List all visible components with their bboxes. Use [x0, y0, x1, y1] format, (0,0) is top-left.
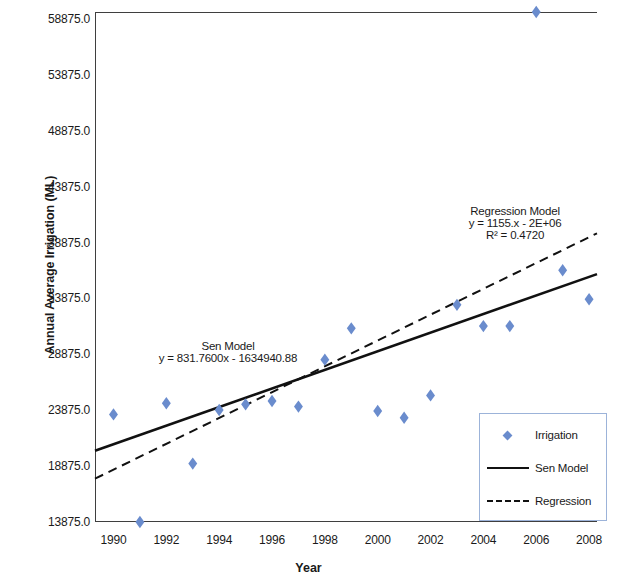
x-axis-tick-label: 1994	[189, 533, 249, 547]
solid-line-icon	[480, 467, 535, 469]
regression-model-annotation: Regression Model y = 1155.x - 2E+06 R² =…	[435, 205, 595, 241]
diamond-marker-icon	[480, 432, 535, 439]
x-axis-tick-label: 1998	[295, 533, 355, 547]
legend-item-regression: Regression	[480, 486, 608, 516]
sen-model-equation: y = 831.7600x - 1634940.88	[128, 352, 328, 364]
sen-model-annotation: Sen Model y = 831.7600x - 1634940.88	[128, 340, 328, 364]
regression-model-annotation-title: Regression Model	[435, 205, 595, 217]
regression-r-squared: R² = 0.4720	[435, 229, 595, 241]
x-axis-title: Year	[0, 561, 617, 575]
legend-label-irrigation: Irrigation	[535, 429, 578, 441]
x-axis-tick-label: 1996	[242, 533, 302, 547]
x-axis-tick-label: 1990	[83, 533, 143, 547]
dashed-line-icon	[480, 500, 535, 502]
x-axis-tick-label: 2004	[453, 533, 513, 547]
irrigation-trend-chart: 13875.018875.023875.028875.033875.038875…	[0, 0, 617, 585]
y-axis-tick-label: 13875.0	[0, 515, 90, 529]
legend-item-irrigation: Irrigation	[480, 420, 608, 450]
x-axis-tick-label: 1992	[136, 533, 196, 547]
chart-legend: Irrigation Sen Model Regression	[479, 413, 607, 521]
y-axis-title: Annual Average Irrigation (ML)	[43, 115, 57, 415]
x-axis-tick-label: 2002	[401, 533, 461, 547]
sen-model-annotation-title: Sen Model	[128, 340, 328, 352]
legend-label-regression: Regression	[535, 495, 591, 507]
y-axis-tick-label: 58875.0	[0, 12, 90, 26]
legend-item-sen-model: Sen Model	[480, 453, 608, 483]
y-axis-tick-label: 18875.0	[0, 459, 90, 473]
x-axis-tick-label: 2000	[348, 533, 408, 547]
x-axis-tick-label: 2008	[559, 533, 617, 547]
legend-label-sen-model: Sen Model	[535, 462, 588, 474]
x-axis-tick-label: 2006	[506, 533, 566, 547]
regression-model-equation: y = 1155.x - 2E+06	[435, 217, 595, 229]
y-axis-tick-label: 53875.0	[0, 68, 90, 82]
